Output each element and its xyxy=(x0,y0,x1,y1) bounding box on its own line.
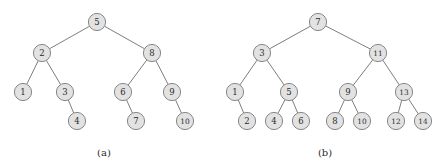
captions-layer: (a)(b) xyxy=(97,147,332,158)
tree-node-label: 11 xyxy=(373,49,382,58)
tree-node-label: 13 xyxy=(399,88,409,97)
tree-node-label: 9 xyxy=(169,87,174,97)
tree-node: 2 xyxy=(238,112,255,129)
tree-node-label: 6 xyxy=(120,87,125,97)
tree-edge xyxy=(383,60,399,85)
tree-edge xyxy=(409,99,419,114)
tree-diagram-canvas: 528136947107311159132468101214 (a)(b) xyxy=(0,0,443,168)
tree-edge xyxy=(104,26,144,49)
tree-edge xyxy=(238,100,243,113)
tree-node: 14 xyxy=(414,112,431,129)
tree-node-label: 1 xyxy=(232,87,237,97)
tree-edge xyxy=(352,100,359,114)
tree-edge xyxy=(68,100,73,113)
tree-node-label: 4 xyxy=(271,116,276,126)
edges-layer xyxy=(27,26,419,114)
tree-node-label: 5 xyxy=(286,87,291,97)
tree-node: 5 xyxy=(88,13,105,30)
tree-edge xyxy=(128,60,147,85)
tree-node-label: 2 xyxy=(39,48,44,58)
tree-edge xyxy=(240,60,257,85)
tree-edge xyxy=(270,26,311,49)
tree-node: 10 xyxy=(353,112,370,129)
tree-node: 8 xyxy=(143,44,160,61)
tree-node: 8 xyxy=(326,112,343,129)
tree-node-label: 12 xyxy=(391,117,400,126)
tree-node: 9 xyxy=(339,83,356,100)
tree-edge xyxy=(398,100,401,112)
tree-node: 3 xyxy=(253,44,270,61)
panel-caption: (b) xyxy=(318,147,332,158)
binary-tree-figure: 528136947107311159132468101214 (a)(b) xyxy=(0,0,443,168)
tree-edge xyxy=(176,100,182,113)
tree-node: 6 xyxy=(292,112,309,129)
tree-node: 4 xyxy=(68,112,85,129)
tree-node: 9 xyxy=(163,83,180,100)
tree-node-label: 10 xyxy=(180,117,190,126)
tree-node-label: 14 xyxy=(418,117,428,126)
tree-node: 1 xyxy=(226,83,243,100)
tree-node-label: 4 xyxy=(74,116,79,126)
panel-caption: (a) xyxy=(97,147,111,158)
tree-node-label: 5 xyxy=(94,17,99,27)
nodes-layer: 528136947107311159132468101214 xyxy=(14,13,431,129)
tree-node: 4 xyxy=(265,112,282,129)
tree-edge xyxy=(156,61,168,85)
tree-node: 6 xyxy=(114,83,131,100)
tree-node-label: 2 xyxy=(244,116,249,126)
tree-node: 3 xyxy=(56,83,73,100)
tree-node: 13 xyxy=(395,83,412,100)
tree-edge xyxy=(353,60,373,85)
tree-edge xyxy=(267,60,284,85)
tree-node-label: 9 xyxy=(345,87,350,97)
tree-node: 10 xyxy=(176,112,193,129)
tree-edge xyxy=(46,60,60,84)
tree-node: 7 xyxy=(127,112,144,129)
tree-node: 12 xyxy=(387,112,404,129)
tree-node-label: 3 xyxy=(259,48,264,58)
tree-node-label: 3 xyxy=(62,87,67,97)
tree-node: 7 xyxy=(309,13,326,30)
tree-node-label: 7 xyxy=(133,116,138,126)
tree-edge xyxy=(292,100,297,113)
tree-edge xyxy=(326,26,371,49)
tree-edge xyxy=(278,100,285,114)
tree-node-label: 8 xyxy=(332,116,337,126)
tree-edge xyxy=(49,26,89,49)
tree-node: 2 xyxy=(33,44,50,61)
tree-node-label: 1 xyxy=(20,87,25,97)
tree-edge xyxy=(127,100,133,113)
tree-node-label: 7 xyxy=(315,17,320,27)
tree-node-label: 10 xyxy=(357,117,367,126)
tree-edge xyxy=(27,61,38,85)
tree-edge xyxy=(339,100,345,113)
tree-node-label: 6 xyxy=(298,116,303,126)
tree-node: 1 xyxy=(14,83,31,100)
tree-node-label: 8 xyxy=(149,48,154,58)
tree-node: 5 xyxy=(280,83,297,100)
tree-node: 11 xyxy=(369,44,386,61)
